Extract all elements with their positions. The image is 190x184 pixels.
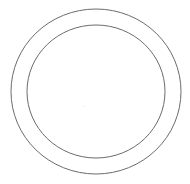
ring-diagram [0, 0, 190, 184]
outer-circle [11, 9, 181, 174]
inner-circle [27, 25, 165, 158]
center-dot [83, 105, 84, 106]
